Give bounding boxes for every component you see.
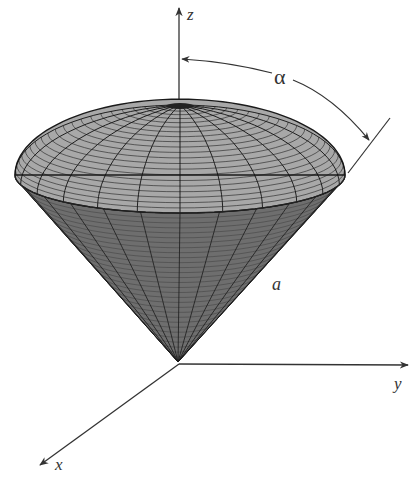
spherical-cone-diagram: z y x α a: [0, 0, 419, 485]
radius-label: a: [272, 274, 281, 294]
cone-boundary-line: [348, 118, 390, 173]
angle-arc-left: [182, 59, 272, 73]
y-axis: [179, 364, 408, 365]
angle-label: α: [274, 64, 286, 89]
spherical-cap-surface: [15, 99, 345, 213]
x-axis: [40, 364, 179, 465]
y-axis-label: y: [392, 374, 402, 393]
x-axis-label: x: [54, 455, 63, 474]
z-axis-label: z: [186, 5, 194, 24]
